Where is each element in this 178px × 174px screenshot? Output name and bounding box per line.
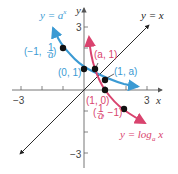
inv-close: , −1)	[102, 107, 122, 118]
label-0-1: (0, 1)	[58, 67, 81, 78]
x-tick-neg3: −3	[13, 95, 25, 106]
exp-curve-label: y = ax	[39, 8, 67, 21]
y-tick-3: 3	[76, 22, 82, 33]
point-a-1	[92, 66, 98, 72]
label-neg1-inv-a: (−1,	[24, 46, 42, 57]
point-1-a	[102, 77, 108, 83]
function-graph: y = ax y 3 −3 −3 3 x y = x (−1, 1 a ) (0…	[0, 0, 178, 174]
point-0-1	[81, 66, 87, 72]
y-axis-label: y	[75, 4, 81, 16]
label-inv-a-neg1: (	[93, 107, 97, 118]
label-1-a: (1, a)	[114, 66, 137, 77]
x-axis-label: x	[155, 94, 161, 106]
y-tick-neg3: −3	[70, 149, 82, 160]
point-neg1-inv-a	[60, 45, 66, 51]
log-curve-label: y = loga x	[119, 128, 163, 143]
point-1-0	[102, 87, 108, 93]
paren-close: )	[53, 46, 56, 57]
x-tick-3: 3	[144, 95, 150, 106]
identity-label: y = x	[140, 9, 164, 21]
label-a-1: (a, 1)	[94, 49, 117, 60]
